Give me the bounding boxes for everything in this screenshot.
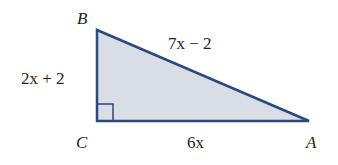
vertex-label-b: B [77, 10, 87, 27]
side-label-bc: 2x + 2 [21, 70, 65, 87]
vertex-label-a: A [306, 134, 316, 151]
side-label-ca: 6x [187, 134, 204, 151]
vertex-label-c: C [76, 134, 87, 151]
side-label-ab: 7x − 2 [168, 35, 212, 52]
